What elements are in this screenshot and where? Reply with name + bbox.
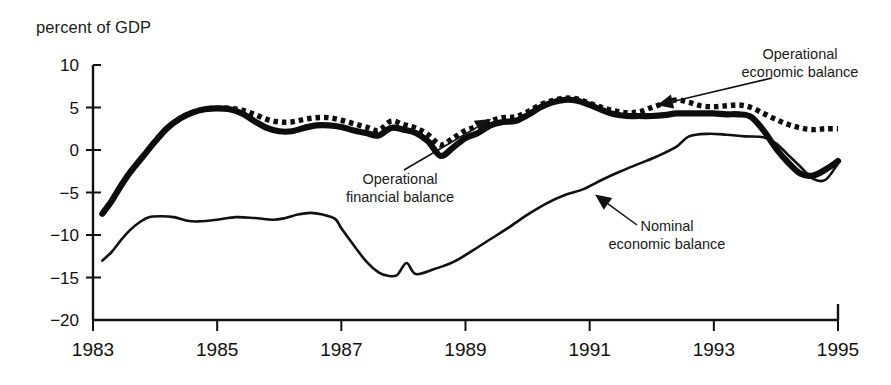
- series-line-operational-financial-balance: [102, 100, 838, 214]
- annotation-operational-economic-balance: Operationaleconomic balance: [657, 46, 858, 109]
- chart-figure: percent of GDP 1050−5−10−15−20 198319851…: [0, 0, 891, 385]
- series-layer: [102, 98, 838, 276]
- x-tick-label: 1987: [320, 339, 362, 360]
- annotation-leader-line: [608, 204, 637, 225]
- annotation-arrowhead-icon: [595, 194, 612, 209]
- annotation-label-operational-economic-balance: Operationaleconomic balance: [742, 46, 859, 80]
- x-tick-label: 1983: [72, 339, 114, 360]
- y-tick-label: 10: [60, 56, 79, 75]
- annotation-nominal-economic-balance: Nominaleconomic balance: [595, 194, 725, 252]
- x-tick-label: 1985: [196, 339, 238, 360]
- x-axis: 1983198519871989199119931995: [72, 304, 859, 360]
- y-tick-label: 5: [70, 99, 79, 118]
- y-tick-label: −20: [50, 311, 79, 330]
- y-tick-label: 0: [70, 141, 79, 160]
- annotation-line-2: economic balance: [609, 236, 726, 252]
- annotation-label-nominal-economic-balance: Nominaleconomic balance: [609, 218, 726, 252]
- x-tick-label: 1995: [817, 339, 859, 360]
- x-tick-label: 1991: [569, 339, 611, 360]
- annotation-line-1: Operational: [363, 171, 438, 187]
- y-tick-label: −5: [60, 184, 79, 203]
- annotation-leader-line: [673, 78, 772, 102]
- x-tick-label: 1993: [693, 339, 735, 360]
- annotation-label-operational-financial-balance: Operationalfinancial balance: [346, 171, 454, 205]
- chart-plot-area: 1050−5−10−15−20 198319851987198919911993…: [0, 0, 891, 385]
- annotation-line-1: Nominal: [640, 218, 693, 234]
- annotation-line-2: financial balance: [346, 189, 454, 205]
- x-tick-label: 1989: [444, 339, 486, 360]
- y-axis: 1050−5−10−15−20: [50, 56, 101, 330]
- annotation-line-2: economic balance: [742, 64, 859, 80]
- y-tick-label: −15: [50, 269, 79, 288]
- annotation-line-1: Operational: [763, 46, 838, 62]
- y-tick-label: −10: [50, 226, 79, 245]
- series-line-nominal-economic-balance: [102, 134, 838, 277]
